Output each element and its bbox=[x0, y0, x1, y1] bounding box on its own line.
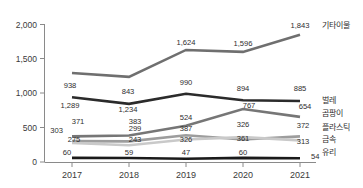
data-label-plastic-2019: 387 bbox=[180, 124, 193, 133]
data-label-metal-2020: 361 bbox=[237, 134, 250, 143]
data-label-insect-2018: 843 bbox=[122, 87, 135, 96]
data-label-plastic-2021: 372 bbox=[297, 121, 310, 130]
legend-label-metal[interactable]: 금속 bbox=[322, 135, 336, 144]
data-label-glass-2017: 60 bbox=[63, 148, 71, 157]
data-label-metal-2018: 243 bbox=[129, 135, 142, 144]
data-label-etc-2021: 1,843 bbox=[290, 21, 309, 30]
y-tick-label-1500: 1,500 bbox=[16, 54, 38, 64]
legend-label-etc[interactable]: 기타이물 bbox=[322, 20, 350, 30]
series-line-glass bbox=[72, 158, 300, 159]
x-tick-label-2021: 2021 bbox=[290, 170, 310, 180]
data-label-etc-2019: 1,624 bbox=[176, 38, 195, 47]
data-label-insect-2020: 894 bbox=[237, 84, 250, 93]
data-label-mold-2020: 767 bbox=[243, 101, 256, 110]
data-label-etc-2020: 1,596 bbox=[233, 39, 252, 48]
data-label-plastic-2018: 299 bbox=[129, 124, 142, 133]
x-tick-label-2017: 2017 bbox=[62, 170, 82, 180]
data-label-etc-2017: 1,289 bbox=[60, 101, 79, 110]
y-tick-label-500: 500 bbox=[23, 123, 37, 133]
data-label-mold-2021: 654 bbox=[299, 102, 312, 111]
data-label-glass-2020: 60 bbox=[239, 148, 247, 157]
x-tick-label-2018: 2018 bbox=[119, 170, 139, 180]
data-label-etc-2018: 1,234 bbox=[118, 105, 137, 114]
data-label-insect-2021: 885 bbox=[294, 84, 307, 93]
data-label-mold-2017: 371 bbox=[72, 117, 85, 126]
data-label-metal-2017: 275 bbox=[68, 135, 81, 144]
legend-label-glass[interactable]: 유리 bbox=[322, 148, 336, 157]
x-tick-label-2019: 2019 bbox=[176, 170, 196, 180]
data-label-metal-2021: 313 bbox=[297, 137, 310, 146]
data-label-insect-2019: 990 bbox=[180, 78, 193, 87]
data-label-plastic-2020: 326 bbox=[237, 120, 250, 129]
data-label-metal-2019: 326 bbox=[180, 135, 193, 144]
data-label-mold-2019: 524 bbox=[180, 113, 193, 122]
y-tick-label-0: 0 bbox=[32, 157, 37, 167]
data-label-insect-2017: 938 bbox=[64, 81, 77, 90]
chart-canvas: 2,000 1,500 1,000 500 0 2017 2018 2019 2… bbox=[0, 0, 363, 188]
data-label-glass-2019: 47 bbox=[182, 148, 190, 157]
series-line-insect bbox=[72, 94, 300, 104]
data-label-plastic-2017: 303 bbox=[50, 126, 63, 135]
x-tick-label-2020: 2020 bbox=[233, 170, 253, 180]
data-label-glass-2021: 54 bbox=[311, 152, 319, 161]
data-label-glass-2018: 59 bbox=[125, 148, 133, 157]
legend-label-insect[interactable]: 벌레 bbox=[322, 95, 336, 105]
y-tick-label-2000: 2,000 bbox=[16, 20, 38, 30]
y-tick-label-1000: 1,000 bbox=[16, 88, 38, 98]
legend-label-plastic[interactable]: 플라스틱 bbox=[322, 122, 350, 132]
legend-label-mold[interactable]: 곰팡이 bbox=[322, 108, 343, 118]
line-chart: 2,000 1,500 1,000 500 0 2017 2018 2019 2… bbox=[0, 0, 363, 188]
